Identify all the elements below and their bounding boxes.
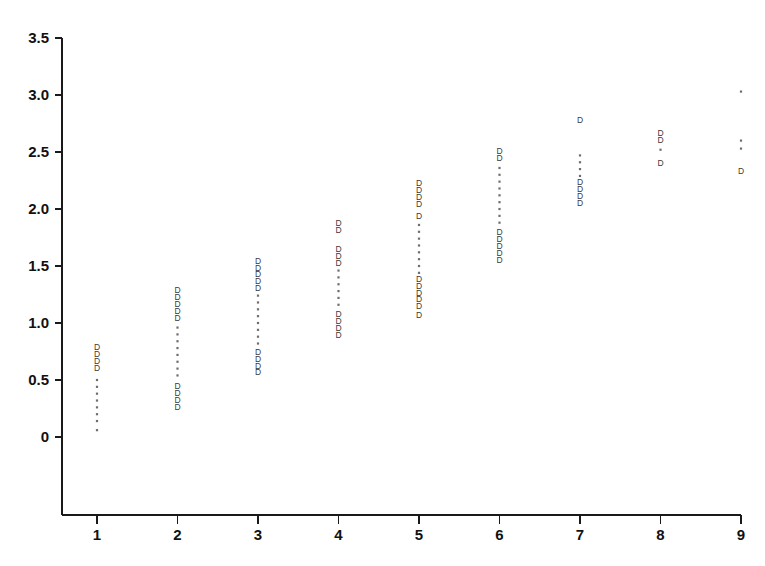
data-point-marker-d: D — [174, 313, 180, 323]
data-point-marker-dot — [96, 420, 98, 422]
data-point-marker-dot — [498, 201, 500, 203]
x-axis-tick-label: 2 — [173, 526, 181, 543]
x-axis-tick-label: 4 — [334, 526, 343, 543]
data-point-marker-dot — [176, 374, 178, 376]
y-axis-tick-label: 3.0 — [28, 86, 49, 103]
data-point-marker-dot — [418, 272, 420, 274]
data-point-marker-d: D — [255, 367, 261, 377]
data-point-marker-d: D — [738, 166, 744, 176]
data-point-marker-dot — [418, 244, 420, 246]
data-point-marker-dot — [418, 265, 420, 267]
data-point-marker-dot — [337, 297, 339, 299]
data-point-marker-dot — [418, 231, 420, 233]
data-point-marker-dot — [418, 224, 420, 226]
plot-canvas: 00.51.01.52.02.53.03.5 123456789 DDDDDDD… — [0, 0, 765, 566]
data-point-marker-dot — [579, 161, 581, 163]
y-axis-tick-label: 1.0 — [28, 314, 49, 331]
data-point-marker-dot — [498, 215, 500, 217]
data-point-marker-d: D — [577, 115, 583, 125]
data-point-marker-dot — [257, 308, 259, 310]
data-point-marker-d: D — [335, 258, 341, 268]
data-point-marker-dot — [337, 283, 339, 285]
data-point-marker-dot — [337, 290, 339, 292]
x-axis-tick-label: 7 — [576, 526, 584, 543]
data-point-marker-dot — [176, 361, 178, 363]
data-point-marker-dot — [257, 336, 259, 338]
y-axis-tick-label: 3.5 — [28, 29, 49, 46]
data-point-marker-dot — [418, 258, 420, 260]
data-markers-layer: DDDDDDDDDDDDDDDDDDDDDDDDDDDDDDDDDDDDDDDD… — [94, 90, 744, 431]
series-D: DDDDDDDDDDDDDDDDDDDDDDDDDDDDDDDDDDDDDDDD… — [94, 115, 744, 411]
y-axis-tick-label: 0.5 — [28, 371, 49, 388]
x-axis-tick-label: 8 — [656, 526, 664, 543]
data-point-marker-dot — [176, 368, 178, 370]
data-point-marker-dot — [498, 181, 500, 183]
data-point-marker-dot — [96, 429, 98, 431]
data-point-marker-dot — [176, 340, 178, 342]
data-point-marker-dot — [337, 304, 339, 306]
data-point-marker-dot — [257, 329, 259, 331]
x-axis-tick-label: 3 — [254, 526, 262, 543]
y-axis-tick-label: 1.5 — [28, 257, 49, 274]
data-point-marker-d: D — [496, 153, 502, 163]
data-point-marker-d: D — [496, 255, 502, 265]
data-point-marker-dot — [176, 354, 178, 356]
data-point-marker-dot — [257, 315, 259, 317]
data-point-marker-dot — [96, 393, 98, 395]
data-point-marker-dot — [176, 347, 178, 349]
data-point-marker-dot — [740, 140, 742, 142]
data-point-marker-dot — [257, 301, 259, 303]
y-axis-tick-label: 0 — [41, 428, 49, 445]
y-axis: 00.51.01.52.02.53.03.5 — [28, 29, 62, 515]
data-point-marker-dot — [740, 147, 742, 149]
data-point-marker-dot — [498, 174, 500, 176]
data-point-marker-d: D — [335, 330, 341, 340]
x-axis-tick-label: 5 — [415, 526, 423, 543]
data-point-marker-dot — [498, 167, 500, 169]
data-point-marker-dot — [96, 379, 98, 381]
data-point-marker-dot — [96, 406, 98, 408]
data-point-marker-d: D — [416, 310, 422, 320]
data-point-marker-dot — [257, 295, 259, 297]
scatter-plot-figure: 00.51.01.52.02.53.03.5 123456789 DDDDDDD… — [0, 0, 765, 566]
data-point-marker-d: D — [174, 402, 180, 412]
data-point-marker-dot — [418, 251, 420, 253]
y-axis-tick-label: 2.0 — [28, 200, 49, 217]
data-point-marker-dot — [257, 322, 259, 324]
x-axis-tick-label: 1 — [93, 526, 101, 543]
data-point-marker-d: D — [416, 199, 422, 209]
data-point-marker-dot — [498, 187, 500, 189]
data-point-marker-dot — [176, 326, 178, 328]
data-point-marker-dot — [740, 90, 742, 92]
x-axis-tick-label: 9 — [737, 526, 745, 543]
data-point-marker-d: D — [255, 283, 261, 293]
data-point-marker-dot — [96, 386, 98, 388]
data-point-marker-dot — [96, 399, 98, 401]
x-axis: 123456789 — [62, 515, 745, 543]
data-point-marker-dot — [579, 175, 581, 177]
data-point-marker-dot — [176, 333, 178, 335]
data-point-marker-dot — [498, 194, 500, 196]
series-dot — [96, 90, 742, 431]
data-point-marker-d: D — [416, 211, 422, 221]
data-point-marker-d: D — [657, 135, 663, 145]
data-point-marker-d: D — [94, 363, 100, 373]
y-axis-tick-label: 2.5 — [28, 143, 49, 160]
data-point-marker-dot — [257, 342, 259, 344]
data-point-marker-dot — [337, 276, 339, 278]
data-point-marker-dot — [418, 238, 420, 240]
data-point-marker-d: D — [657, 158, 663, 168]
data-point-marker-dot — [498, 222, 500, 224]
x-axis-tick-label: 6 — [495, 526, 503, 543]
data-point-marker-dot — [498, 208, 500, 210]
data-point-marker-d: D — [335, 225, 341, 235]
data-point-marker-dot — [337, 269, 339, 271]
data-point-marker-dot — [579, 168, 581, 170]
data-point-marker-dot — [579, 154, 581, 156]
data-point-marker-d: D — [577, 198, 583, 208]
data-point-marker-dot — [659, 149, 661, 151]
data-point-marker-dot — [96, 413, 98, 415]
